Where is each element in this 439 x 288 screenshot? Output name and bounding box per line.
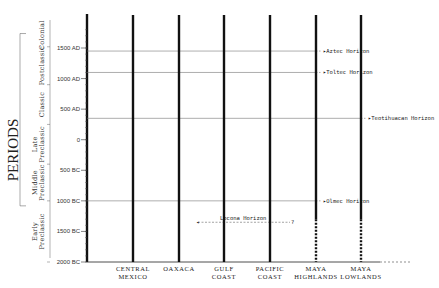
svg-text:MEXICO: MEXICO (118, 273, 147, 280)
region-label: MAYAHIGHLANDS (294, 265, 337, 280)
tick-label: 1500 AD (57, 45, 81, 51)
svg-text:GULF: GULF (214, 265, 233, 272)
region-label: MAYALOWLANDS (340, 265, 381, 280)
horizon-lines: ▸Aztec Horizon▸Toltec Horizon▸Teotihuaca… (87, 48, 434, 225)
tick-label: 1500 BC (57, 228, 81, 234)
period-label: Preclassic (38, 164, 46, 200)
horizon-olmec: ▸Olmec Horizon (87, 198, 369, 204)
horizon-toltec: ▸Toltec Horizon (87, 69, 373, 75)
svg-text:COAST: COAST (258, 273, 282, 280)
svg-text:OAXACA: OAXACA (163, 265, 194, 272)
period-late-preclassic: LatePreclassic (31, 126, 50, 164)
period-label: Classic (38, 92, 46, 117)
horizon-label: ▸Aztec Horizon (323, 48, 369, 54)
svg-text:MAYA: MAYA (351, 265, 372, 272)
chronology-diagram: PERIODS ColonialPostclassicClassicLatePr… (0, 0, 439, 288)
horizon-locona: ◂Locona Horizon? (196, 215, 294, 225)
tick-label: 1000 AD (57, 76, 81, 82)
period-label: Preclassic (38, 126, 46, 162)
region-label: OAXACA (163, 265, 194, 272)
question-mark: ? (291, 219, 294, 225)
tick-label: 500 AD (60, 106, 80, 112)
tick-label: 500 BC (60, 167, 81, 173)
horizon-teotihuacan: ▸Teotihuacan Horizon (87, 115, 434, 121)
periods-title: PERIODS (5, 119, 21, 182)
svg-text:MAYA: MAYA (306, 265, 327, 272)
svg-text:CENTRAL: CENTRAL (116, 265, 150, 272)
period-label: Colonial (38, 20, 46, 50)
region-labels: CENTRALMEXICOOAXACAGULFCOASTPACIFICCOAST… (116, 265, 382, 280)
horizon-label: ▸Toltec Horizon (323, 69, 373, 75)
svg-text:COAST: COAST (212, 273, 236, 280)
region-label: CENTRALMEXICO (116, 265, 150, 280)
period-colonial: Colonial (38, 20, 50, 50)
arrow-left-icon: ◂ (196, 219, 199, 225)
period-postclassic: Postclassic (38, 46, 50, 85)
period-early-preclassic: EarlyPreclassic (31, 213, 50, 262)
tick-label: 1000 BC (57, 198, 81, 204)
period-label: Postclassic (38, 46, 46, 85)
period-label: Preclassic (38, 213, 46, 249)
tick-label: 0 (77, 137, 81, 143)
period-middle-preclassic: MiddlePreclassic (31, 164, 50, 201)
svg-text:HIGHLANDS: HIGHLANDS (294, 273, 337, 280)
horizon-label: Locona Horizon (220, 215, 266, 221)
region-label: GULFCOAST (212, 265, 236, 280)
horizon-aztec: ▸Aztec Horizon (87, 48, 369, 54)
region-label: PACIFICCOAST (256, 265, 285, 280)
tick-label: 2000 BC (57, 259, 81, 265)
period-classic: Classic (38, 92, 50, 125)
svg-text:LOWLANDS: LOWLANDS (340, 273, 381, 280)
horizon-label: ▸Teotihuacan Horizon (368, 115, 434, 121)
svg-text:PACIFIC: PACIFIC (256, 265, 285, 272)
period-brackets: ColonialPostclassicClassicLatePreclassic… (20, 20, 50, 262)
horizon-label: ▸Olmec Horizon (323, 198, 369, 204)
